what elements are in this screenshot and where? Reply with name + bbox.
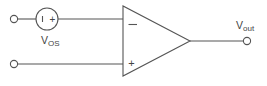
input-bottom-terminal [10, 60, 17, 67]
output-terminal [243, 37, 250, 44]
opamp-offset-diagram: + VOS + Vout [0, 0, 267, 86]
vout-label: Vout [236, 19, 255, 33]
opamp-noninverting-sign: + [128, 57, 134, 69]
input-top-terminal [10, 15, 17, 22]
vos-label: VOS [41, 34, 60, 48]
vos-plus-mark: + [50, 14, 56, 25]
